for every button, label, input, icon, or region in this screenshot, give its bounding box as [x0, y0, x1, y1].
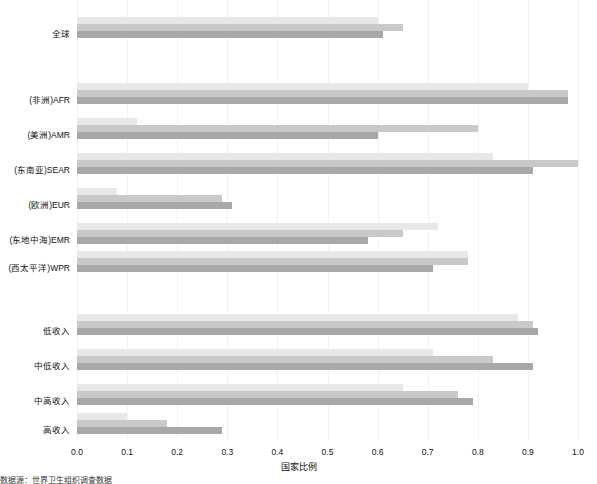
- bar-group: [77, 384, 578, 406]
- bar: [77, 202, 232, 209]
- x-tick-label: 0.3: [221, 446, 233, 458]
- bar: [77, 398, 473, 405]
- bar: [77, 328, 538, 335]
- bar: [77, 132, 378, 139]
- bar-group: [77, 118, 578, 140]
- bar-group: [77, 314, 578, 336]
- bar: [77, 97, 568, 104]
- bar: [77, 420, 167, 427]
- bar: [77, 223, 438, 230]
- bar-group: [77, 153, 578, 175]
- y-axis-label: 全球: [52, 29, 70, 39]
- bar: [77, 17, 378, 24]
- x-tick-label: 0.0: [71, 446, 83, 458]
- bar: [77, 237, 368, 244]
- bar-group: [77, 223, 578, 245]
- x-axis-title: 国家比例: [0, 460, 597, 473]
- x-tick-label: 0.4: [271, 446, 283, 458]
- bar: [77, 427, 222, 434]
- bar: [77, 384, 403, 391]
- y-axis-label: 高收入: [43, 425, 70, 435]
- y-axis-label: (东南亚)SEAR: [14, 165, 70, 175]
- bar: [77, 314, 518, 321]
- bar: [77, 265, 433, 272]
- bar: [77, 391, 458, 398]
- bar-rows: [77, 0, 578, 440]
- chart-footnote: 数据源：世界卫生组织调查数据: [0, 474, 112, 484]
- x-tick-label: 0.7: [422, 446, 434, 458]
- bar: [77, 195, 222, 202]
- x-tick-label: 0.2: [171, 446, 183, 458]
- bar: [77, 31, 383, 38]
- bar-group: [77, 83, 578, 105]
- bar: [77, 118, 137, 125]
- y-axis-label: (西太平洋)WPR: [9, 263, 71, 273]
- bar: [77, 153, 493, 160]
- bar: [77, 83, 528, 90]
- bar: [77, 90, 568, 97]
- x-tick-label: 0.9: [522, 446, 534, 458]
- bar: [77, 188, 117, 195]
- bar: [77, 258, 468, 265]
- y-axis-label: (东地中海)EMR: [9, 235, 70, 245]
- bar: [77, 349, 433, 356]
- bar: [77, 321, 533, 328]
- y-axis-label: (非洲)AFR: [29, 95, 70, 105]
- bar: [77, 24, 403, 31]
- bar-group: [77, 413, 578, 435]
- x-tick-label: 0.5: [322, 446, 334, 458]
- bar: [77, 413, 127, 420]
- x-tick-label: 0.6: [372, 446, 384, 458]
- y-axis-label: (美洲)AMR: [27, 130, 70, 140]
- x-tick-label: 0.1: [121, 446, 133, 458]
- x-tick-label: 1.0: [572, 446, 584, 458]
- gridline-1.0: [578, 0, 579, 440]
- y-axis-label: 低收入: [43, 326, 70, 336]
- bar: [77, 363, 533, 370]
- x-axis-ticks: 0.00.10.20.30.40.50.60.70.80.91.0: [77, 446, 578, 460]
- bar-group: [77, 251, 578, 273]
- y-axis-label: 中高收入: [34, 396, 70, 406]
- bar: [77, 251, 468, 258]
- y-axis-label: 中低收入: [34, 361, 70, 371]
- y-axis-label: (欧洲)EUR: [28, 200, 70, 210]
- bar: [77, 230, 403, 237]
- bar: [77, 160, 578, 167]
- bar-chart: 全球(非洲)AFR(美洲)AMR(东南亚)SEAR(欧洲)EUR(东地中海)EM…: [0, 0, 597, 484]
- bar: [77, 125, 478, 132]
- bar: [77, 356, 493, 363]
- bar-group: [77, 349, 578, 371]
- plot-area: [77, 0, 578, 440]
- y-axis-labels: 全球(非洲)AFR(美洲)AMR(东南亚)SEAR(欧洲)EUR(东地中海)EM…: [0, 0, 74, 440]
- x-tick-label: 0.8: [472, 446, 484, 458]
- bar: [77, 167, 533, 174]
- bar-group: [77, 188, 578, 210]
- bar-group: [77, 17, 578, 39]
